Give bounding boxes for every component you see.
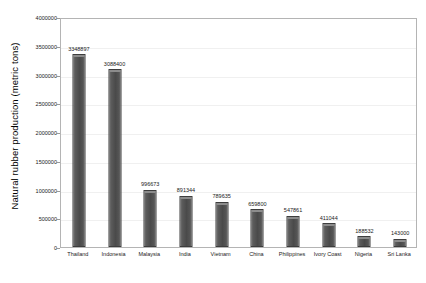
bar-top-highlight [252,210,263,212]
bar-slot: 891344 [168,19,204,247]
bar-value-label: 789635 [212,193,230,199]
bar-slot: 411044 [311,19,347,247]
bar-slot: 547861 [275,19,311,247]
bar-value-label: 188532 [355,228,373,234]
x-axis-category-label: Ivory Coast [310,251,346,257]
bar-chart: Natural rubber production (metric tons) … [0,0,426,283]
bar-top-highlight [145,191,156,193]
x-axis-category-label: India [167,251,203,257]
bar-value-label: 3348897 [68,46,89,52]
bar-top-highlight [395,240,406,242]
bar-slot: 996673 [132,19,168,247]
y-axis-tick-label: 3000000 [22,73,57,79]
bar-top-highlight [73,55,84,57]
bar-top-highlight [180,197,191,199]
bar-top-highlight [216,203,227,205]
x-axis-category-label: China [239,251,275,257]
bar-value-label: 996673 [141,181,159,187]
y-axis-tick-label: 0 [22,245,57,251]
bar[interactable] [144,190,157,247]
bar[interactable] [251,209,264,247]
y-axis-tick-label: 3500000 [22,44,57,50]
x-axis-category-label: Malaysia [131,251,167,257]
bar-value-label: 891344 [177,187,195,193]
bar-slot: 143000 [382,19,418,247]
y-axis-tick-label: 1500000 [22,159,57,165]
bar-slot: 659800 [240,19,276,247]
bar[interactable] [394,239,407,247]
y-axis-tick-label: 2500000 [22,101,57,107]
bar-value-label: 143000 [391,230,409,236]
bar-top-highlight [323,224,334,226]
bar-slot: 3088400 [97,19,133,247]
x-axis-category-label: Philippines [274,251,310,257]
bar-value-label: 411044 [320,215,338,221]
y-axis-tick-mark [56,248,60,249]
y-axis-tick-labels: 0500000100000015000002000000250000030000… [22,18,57,248]
x-axis-category-labels: ThailandIndonesiaMalaysiaIndiaVietnamChi… [60,251,417,265]
bar[interactable] [322,223,335,247]
x-axis-category-label: Nigeria [346,251,382,257]
bar[interactable] [215,202,228,247]
bar-value-label: 3088400 [104,61,125,67]
x-axis-category-label: Sri Lanka [381,251,417,257]
bar[interactable] [358,236,371,247]
y-axis-tick-label: 2000000 [22,130,57,136]
bar-top-highlight [109,70,120,72]
bar-slot: 789635 [204,19,240,247]
bar-slot: 3348897 [61,19,97,247]
x-axis-category-label: Vietnam [203,251,239,257]
x-axis-category-label: Indonesia [96,251,132,257]
bar-top-highlight [288,217,299,219]
bar-slot: 188532 [347,19,383,247]
bar[interactable] [287,216,300,248]
bar-top-highlight [359,237,370,239]
bar[interactable] [72,54,85,247]
plot-area: 3348897308840099667389134478963565980054… [60,18,417,248]
x-axis-category-label: Thailand [60,251,96,257]
bar-value-label: 659800 [248,201,266,207]
bar[interactable] [179,196,192,247]
bar-value-label: 547861 [284,207,302,213]
y-axis-tick-label: 1000000 [22,188,57,194]
bar[interactable] [108,69,121,247]
y-axis-tick-label: 500000 [22,216,57,222]
bar-series: 3348897308840099667389134478963565980054… [61,19,416,247]
y-axis-tick-label: 4000000 [22,15,57,21]
